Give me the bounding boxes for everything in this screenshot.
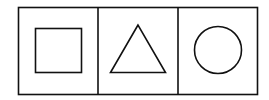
shapes-strip: square triangle circle [0, 0, 269, 100]
circle-shape [195, 27, 242, 74]
outer-frame [19, 8, 258, 95]
triangle-shape [111, 25, 166, 73]
panel-square [36, 29, 82, 73]
panel-triangle [111, 25, 166, 73]
square-shape [36, 29, 82, 73]
panel-circle [195, 27, 242, 74]
